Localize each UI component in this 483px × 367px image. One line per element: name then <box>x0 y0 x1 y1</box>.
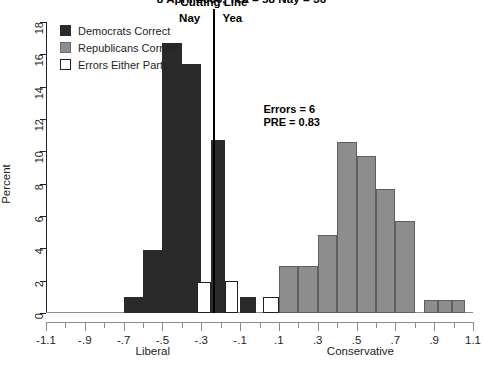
chart-legend: Democrats Correct Republicans Correct Er… <box>60 22 178 73</box>
x-tick-label: -.1 <box>233 334 246 346</box>
x-tick-major <box>85 322 86 331</box>
bar-errors <box>197 282 211 313</box>
bar-errors <box>225 281 239 313</box>
bar-republicans <box>337 142 356 313</box>
legend-swatch-democrats <box>60 25 71 36</box>
bar-republicans <box>376 189 395 313</box>
x-tick-major <box>473 322 474 331</box>
bar-errors <box>263 297 279 313</box>
cutting-line-label: Cutting Line <box>180 0 247 8</box>
x-tick-label: -.7 <box>117 334 130 346</box>
legend-item-democrats: Democrats Correct <box>60 22 178 39</box>
x-tick-minor <box>337 322 338 328</box>
x-tick-minor <box>221 322 222 328</box>
nay-label: Nay <box>179 12 200 24</box>
bar-democrats <box>143 250 162 313</box>
statistics-annotation: Errors = 6PRE = 0.83 <box>263 103 320 130</box>
y-tick-label: 16 <box>33 54 45 66</box>
x-tick-minor <box>415 322 416 328</box>
x-tick-label: .9 <box>429 334 439 346</box>
x-tick-major <box>124 322 125 331</box>
x-tick-major <box>201 322 202 331</box>
x-tick-minor <box>104 322 105 328</box>
y-tick-label: 12 <box>33 119 45 131</box>
x-tick-major <box>434 322 435 331</box>
x-tick-label: .3 <box>313 334 323 346</box>
legend-label-democrats: Democrats Correct <box>78 25 170 37</box>
y-tick-label: 18 <box>33 22 45 34</box>
bar-republicans <box>279 266 298 313</box>
errors-value: Errors = 6 <box>263 103 320 117</box>
legend-label-errors: Errors Either Party <box>78 59 168 71</box>
x-tick-major <box>46 322 47 331</box>
x-axis-caption-conservative: Conservative <box>327 345 394 357</box>
x-tick-label: -.9 <box>78 334 91 346</box>
x-tick-label: -1.1 <box>36 334 56 346</box>
y-tick-label: 4 <box>33 248 45 254</box>
y-tick-label: 8 <box>33 184 45 190</box>
bar-republicans <box>318 235 337 313</box>
chart-figure: 8 April 2006, Yea = 58 Nay = 36 Percent … <box>0 0 483 367</box>
x-tick-minor <box>454 322 455 328</box>
bar-democrats <box>240 297 256 313</box>
x-tick-minor <box>260 322 261 328</box>
x-tick-minor <box>143 322 144 328</box>
legend-item-republicans: Republicans Correct <box>60 39 178 56</box>
bar-democrats <box>124 297 143 313</box>
y-axis-label: Percent <box>0 164 12 204</box>
x-tick-major <box>240 322 241 331</box>
y-tick-label: 2 <box>33 281 45 287</box>
x-tick-minor <box>298 322 299 328</box>
x-tick-minor <box>376 322 377 328</box>
legend-label-republicans: Republicans Correct <box>78 42 178 54</box>
y-tick-label: 10 <box>33 151 45 163</box>
x-tick-label: 1.1 <box>465 334 481 346</box>
x-tick-major <box>357 322 358 331</box>
pre-value: PRE = 0.83 <box>263 116 320 130</box>
x-tick-label: .1 <box>274 334 284 346</box>
bar-republicans <box>438 300 452 313</box>
bar-republicans <box>395 221 414 313</box>
x-tick-major <box>395 322 396 331</box>
legend-item-errors: Errors Either Party <box>60 56 178 73</box>
legend-swatch-errors <box>60 59 71 70</box>
x-tick-major <box>279 322 280 331</box>
x-tick-label: -.3 <box>195 334 208 346</box>
legend-swatch-republicans <box>60 42 71 53</box>
bar-democrats <box>162 43 181 313</box>
yea-label: Yea <box>222 12 242 24</box>
cutting-line <box>213 9 215 313</box>
bar-republicans <box>424 300 438 313</box>
x-axis-caption-liberal: Liberal <box>135 345 170 357</box>
x-tick-minor <box>182 322 183 328</box>
bar-republicans <box>357 156 376 313</box>
y-tick-label: 0 <box>33 313 45 319</box>
x-tick-major <box>162 322 163 331</box>
x-tick-major <box>318 322 319 331</box>
bar-democrats <box>182 64 201 313</box>
y-tick-label: 14 <box>33 87 45 99</box>
bar-republicans <box>452 300 466 313</box>
x-tick-minor <box>65 322 66 328</box>
x-axis-ruler <box>46 322 473 323</box>
bar-republicans <box>298 266 317 313</box>
y-tick-label: 6 <box>33 216 45 222</box>
